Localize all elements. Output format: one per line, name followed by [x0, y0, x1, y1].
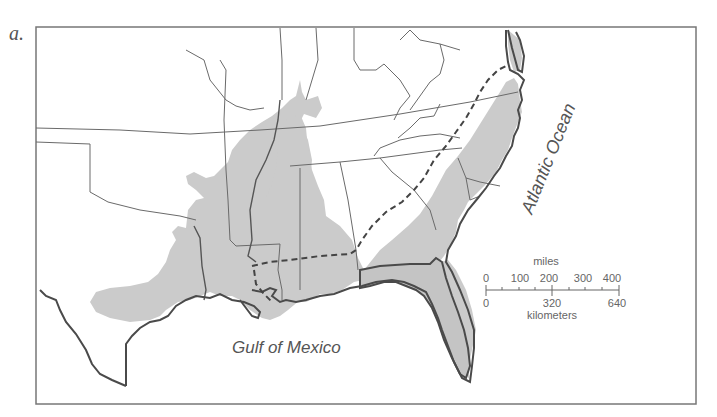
scale-mile-tick-100: 100 — [511, 272, 529, 284]
scale-km-title: kilometers — [527, 309, 578, 321]
gulf-of-mexico-label: Gulf of Mexico — [232, 338, 341, 357]
scale-miles-title: miles — [533, 255, 559, 267]
map-frame — [36, 27, 696, 404]
southeast-us-map: Atlantic Ocean Gulf of Mexico miles 0 10… — [0, 0, 717, 417]
scale-km-tick-640: 640 — [608, 297, 626, 309]
scale-bar: miles 0 100 200 300 400 0 320 640 kilome… — [483, 255, 626, 321]
scale-mile-tick-400: 400 — [603, 272, 621, 284]
scale-mile-tick-300: 300 — [574, 272, 592, 284]
scale-mile-tick-200: 200 — [540, 272, 558, 284]
scale-km-tick-0: 0 — [483, 297, 489, 309]
scale-km-tick-320: 320 — [543, 297, 561, 309]
atlantic-ocean-label: Atlantic Ocean — [517, 100, 580, 217]
scale-mile-tick-0: 0 — [483, 272, 489, 284]
